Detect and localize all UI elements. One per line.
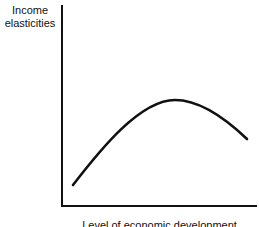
x-axis-label: Level of economic development bbox=[60, 219, 259, 227]
elasticity-curve bbox=[73, 100, 247, 185]
chart-plot bbox=[0, 0, 259, 227]
